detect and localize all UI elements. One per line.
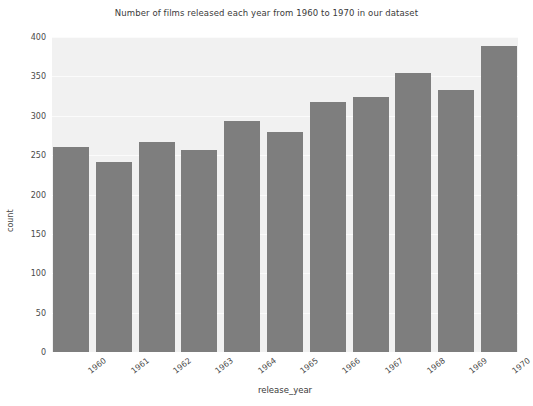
chart-figure: Number of films released each year from … — [0, 0, 533, 406]
y-tick-label: 250 — [31, 151, 46, 160]
x-tick-label: 1961 — [129, 356, 151, 376]
y-tick-label: 0 — [41, 348, 46, 357]
chart-title: Number of films released each year from … — [0, 8, 533, 18]
x-axis: 1960196119621963196419651966196719681969… — [52, 352, 518, 386]
x-tick-label: 1968 — [425, 356, 447, 376]
x-tick-label: 1962 — [171, 356, 193, 376]
x-tick-label: 1966 — [341, 356, 363, 376]
x-tick-label: 1965 — [298, 356, 320, 376]
bar[interactable] — [224, 121, 260, 352]
bar[interactable] — [481, 46, 517, 352]
x-tick-label: 1969 — [468, 356, 490, 376]
x-tick-label: 1963 — [214, 356, 236, 376]
bar[interactable] — [53, 147, 89, 352]
x-tick-label: 1960 — [86, 356, 108, 376]
bar[interactable] — [310, 102, 346, 352]
y-tick-label: 350 — [31, 72, 46, 81]
bar[interactable] — [353, 97, 389, 352]
plot-area — [52, 37, 518, 352]
y-tick-label: 200 — [31, 190, 46, 199]
bar[interactable] — [267, 132, 303, 352]
y-tick-label: 400 — [31, 33, 46, 42]
y-tick-label: 50 — [36, 308, 46, 317]
x-tick-label: 1967 — [383, 356, 405, 376]
x-axis-label: release_year — [52, 385, 518, 395]
x-tick-label: 1964 — [256, 356, 278, 376]
y-axis: count 050100150200250300350400 — [0, 37, 52, 352]
bar-series — [52, 37, 518, 352]
y-tick-label: 100 — [31, 269, 46, 278]
bar[interactable] — [181, 150, 217, 352]
y-tick-label: 150 — [31, 229, 46, 238]
y-axis-label: count — [6, 209, 15, 232]
bar[interactable] — [438, 90, 474, 352]
y-tick-label: 300 — [31, 111, 46, 120]
bar[interactable] — [96, 162, 132, 352]
x-tick-label: 1970 — [510, 356, 532, 376]
bar[interactable] — [139, 142, 175, 352]
bar[interactable] — [395, 73, 431, 352]
